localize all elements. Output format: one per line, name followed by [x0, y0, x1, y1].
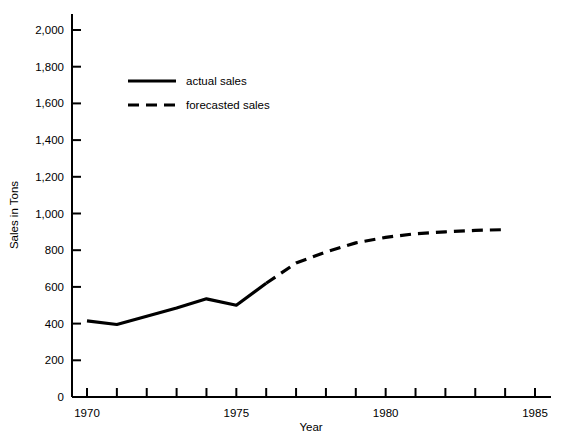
- y-tick-label: 0: [58, 391, 64, 403]
- y-tick-label: 1,400: [35, 134, 64, 146]
- y-tick-label: 600: [45, 281, 64, 293]
- x-axis-title: Year: [299, 421, 322, 433]
- x-tick-label: 1975: [224, 407, 250, 419]
- x-tick-label: 1970: [74, 407, 100, 419]
- legend-label-forecasted-sales: forecasted sales: [186, 99, 270, 111]
- y-tick-label: 2,000: [35, 24, 64, 36]
- chart-background: [0, 0, 575, 442]
- y-tick-label: 1,600: [35, 97, 64, 109]
- y-axis-title: Sales in Tons: [8, 181, 20, 249]
- sales-forecast-line-chart: 02004006008001,0001,2001,4001,6001,8002,…: [0, 0, 575, 442]
- chart-container: 02004006008001,0001,2001,4001,6001,8002,…: [0, 0, 575, 442]
- legend-label-actual-sales: actual sales: [186, 75, 247, 87]
- y-tick-label: 400: [45, 318, 64, 330]
- y-tick-label: 1,200: [35, 171, 64, 183]
- x-tick-label: 1980: [373, 407, 399, 419]
- y-tick-label: 200: [45, 354, 64, 366]
- y-tick-label: 1,800: [35, 61, 64, 73]
- y-tick-label: 800: [45, 244, 64, 256]
- x-tick-label: 1985: [522, 407, 548, 419]
- y-tick-label: 1,000: [35, 208, 64, 220]
